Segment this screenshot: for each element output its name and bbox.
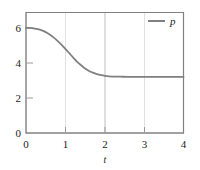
y-ticklabel-4: 4	[16, 57, 22, 69]
legend-label-p: p	[169, 15, 176, 27]
chart-canvas: 6 4 2 0 0 1 2 3 4 t p	[0, 0, 200, 170]
y-ticklabel-0: 0	[16, 127, 22, 139]
y-ticklabel-2: 2	[16, 92, 22, 104]
chart-figure: 6 4 2 0 0 1 2 3 4 t p	[0, 0, 200, 170]
x-ticklabel-4: 4	[181, 138, 187, 150]
x-ticklabel-3: 3	[142, 138, 148, 150]
y-ticklabel-6: 6	[16, 22, 22, 34]
x-ticklabel-0: 0	[23, 138, 29, 150]
x-ticklabel-2: 2	[102, 138, 108, 150]
x-axis-label: t	[104, 154, 107, 165]
x-ticklabel-1: 1	[63, 138, 69, 150]
